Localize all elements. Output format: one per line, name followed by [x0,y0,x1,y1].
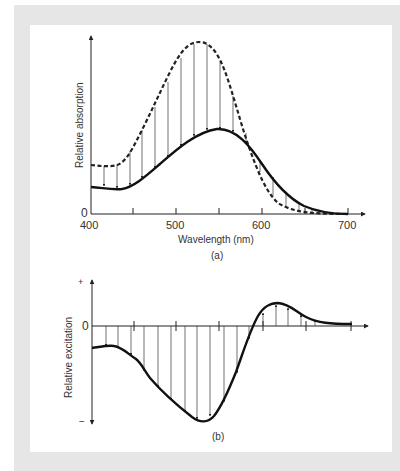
b-zero-label: 0 [82,319,89,333]
a-arrows-down [104,44,246,188]
a-y-label: Relative absorption [74,82,85,168]
a-panel-label: (a) [211,250,223,261]
b-y-label: Relative excitation [63,317,74,398]
a-tick-700: 700 [338,219,356,231]
b-minus-label: − [79,416,85,427]
a-tick-500: 500 [166,219,184,231]
a-tick-600: 600 [252,219,270,231]
b-plus-label: + [78,277,83,287]
figure-svg: 0 400 500 600 700 Wavelength (nm) (a) Re… [0,0,400,471]
b-arrows-up [263,305,315,326]
chart-a: 0 400 500 600 700 Wavelength (nm) (a) Re… [74,36,365,261]
a-zero-label: 0 [81,206,88,220]
a-tick-400: 400 [80,219,98,231]
a-solid-curve [91,129,348,214]
b-excitation-curve [92,303,352,421]
a-x-label: Wavelength (nm) [178,234,254,245]
chart-b: + 0 − (b) Relative excitation [63,277,368,442]
b-panel-label: (b) [212,431,224,442]
